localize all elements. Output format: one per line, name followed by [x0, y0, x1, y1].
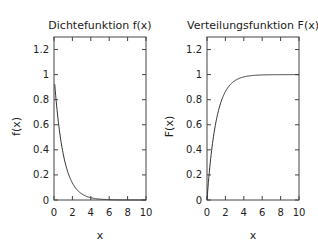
- y-tick-label: 0.8: [186, 94, 202, 105]
- x-axis-label: x: [97, 229, 104, 242]
- chart-figure: 024681000.20.40.60.811.2Dichtefunktion f…: [0, 0, 318, 249]
- chart-title: Dichtefunktion f(x): [48, 19, 151, 32]
- y-tick-label: 1: [43, 69, 49, 80]
- x-tick-label: 0: [204, 207, 210, 218]
- chart-panel-1: 024681000.20.40.60.811.2Dichtefunktion f…: [10, 19, 152, 242]
- y-tick-label: 0: [196, 195, 202, 206]
- plot-frame: [54, 37, 146, 200]
- x-tick-label: 4: [88, 207, 94, 218]
- x-tick-label: 6: [106, 207, 112, 218]
- x-tick-label: 10: [293, 207, 306, 218]
- y-tick-label: 1: [196, 69, 202, 80]
- curve-line: [207, 75, 299, 200]
- x-tick-label: 10: [140, 207, 153, 218]
- y-tick-label: 1.2: [186, 44, 202, 55]
- x-tick-label: 8: [277, 207, 283, 218]
- x-tick-label: 8: [124, 207, 130, 218]
- x-tick-label: 2: [222, 207, 228, 218]
- chart-panel-2: 024681000.20.40.60.811.2Verteilungsfunkt…: [163, 19, 318, 242]
- y-axis-label: f(x): [10, 117, 23, 136]
- y-tick-label: 0.6: [33, 119, 49, 130]
- y-tick-label: 1.2: [33, 44, 49, 55]
- y-tick-label: 0.4: [33, 144, 49, 155]
- x-tick-label: 0: [51, 207, 57, 218]
- y-tick-label: 0.2: [186, 169, 202, 180]
- y-tick-label: 0: [43, 195, 49, 206]
- y-tick-label: 0.4: [186, 144, 202, 155]
- y-axis-label: F(x): [163, 116, 176, 137]
- x-tick-label: 6: [259, 207, 265, 218]
- y-tick-label: 0.6: [186, 119, 202, 130]
- curve-line: [55, 84, 146, 200]
- x-axis-label: x: [250, 229, 257, 242]
- y-tick-label: 0.2: [33, 169, 49, 180]
- x-tick-label: 2: [69, 207, 75, 218]
- chart-title: Verteilungsfunktion F(x): [187, 19, 318, 32]
- x-tick-label: 4: [241, 207, 247, 218]
- plot-frame: [207, 37, 299, 200]
- charts-svg: 024681000.20.40.60.811.2Dichtefunktion f…: [0, 0, 318, 249]
- y-tick-label: 0.8: [33, 94, 49, 105]
